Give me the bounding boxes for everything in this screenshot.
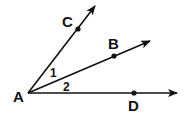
angle-1-label: 1 [50,66,57,80]
point-b [111,53,116,58]
point-c [75,26,80,31]
label-b: B [108,35,119,52]
label-c: C [62,13,73,30]
label-a: A [13,88,24,105]
angle-2-label: 2 [63,80,70,94]
ray-ab [28,41,150,93]
point-d [131,90,136,95]
geometry-diagram: C B D A 1 2 [0,0,186,120]
label-d: D [128,97,139,114]
